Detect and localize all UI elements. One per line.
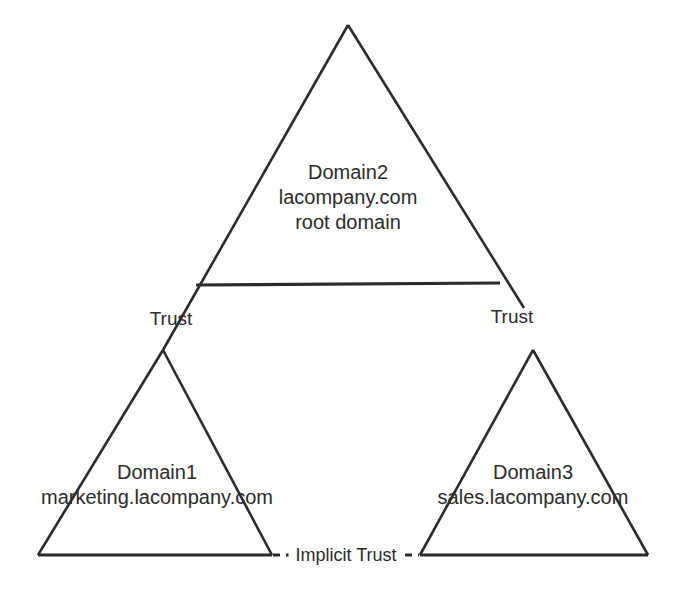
domain1-label: Domain1 marketing.lacompany.com	[41, 460, 273, 510]
domain2-label: Domain2 lacompany.com root domain	[279, 160, 418, 236]
implicit-trust-label: Implicit Trust	[288, 544, 403, 567]
domain3-right-edge	[533, 350, 648, 555]
domain-trust-diagram: Domain2 lacompany.com root domain Domain…	[0, 0, 684, 592]
trust-label-left: Trust	[150, 307, 193, 331]
domain2-dns: lacompany.com	[279, 185, 418, 210]
domain3-label: Domain3 sales.lacompany.com	[438, 460, 629, 510]
domain1-dns: marketing.lacompany.com	[41, 485, 273, 510]
domain3-left-edge	[420, 350, 533, 555]
domain3-name: Domain3	[438, 460, 629, 485]
domain2-role: root domain	[279, 210, 418, 235]
domain1-triangle	[38, 350, 272, 555]
domain3-dns: sales.lacompany.com	[438, 485, 629, 510]
domain1-right-edge	[163, 350, 272, 555]
domain1-name: Domain1	[41, 460, 273, 485]
trust-label-right: Trust	[491, 305, 534, 329]
domain3-triangle	[420, 350, 648, 555]
domain1-left-edge	[38, 350, 163, 555]
domain2-name: Domain2	[279, 160, 418, 185]
domain2-base-edge	[196, 283, 500, 285]
